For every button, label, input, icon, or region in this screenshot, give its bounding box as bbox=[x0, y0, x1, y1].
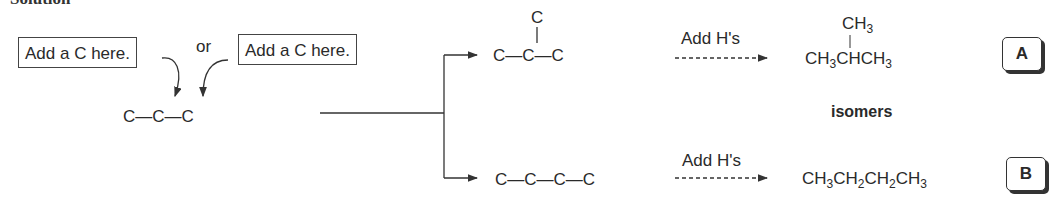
curved-arrow-right bbox=[203, 60, 228, 96]
curved-arrow-left bbox=[162, 58, 179, 96]
diagram-connectors bbox=[0, 0, 1063, 211]
